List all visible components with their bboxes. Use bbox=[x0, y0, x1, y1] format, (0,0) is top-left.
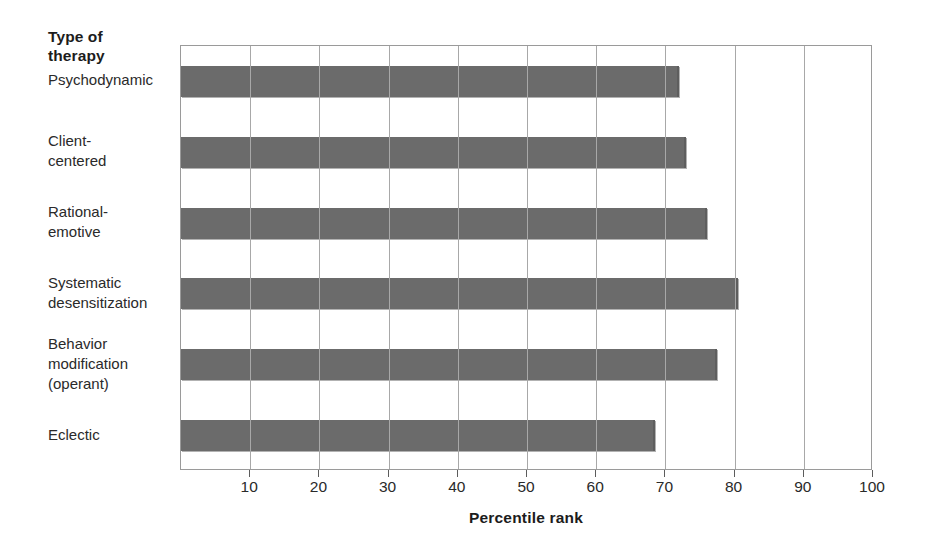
gridline bbox=[596, 46, 597, 469]
category-label-line: Behavior bbox=[48, 334, 176, 354]
category-label-line: Eclectic bbox=[48, 425, 176, 445]
category-label-line: Client- bbox=[48, 131, 176, 151]
category-label-line: centered bbox=[48, 151, 176, 171]
tick-mark bbox=[318, 470, 319, 477]
gridline bbox=[665, 46, 666, 469]
tick-label: 100 bbox=[859, 478, 885, 496]
tick-mark bbox=[526, 470, 527, 477]
category-label: Psychodynamic bbox=[48, 70, 176, 90]
gridline bbox=[458, 46, 459, 469]
bar bbox=[181, 208, 707, 239]
tick-label: 60 bbox=[587, 478, 604, 496]
plot-area bbox=[180, 45, 872, 470]
tick-label: 30 bbox=[379, 478, 396, 496]
category-label: Rational-emotive bbox=[48, 202, 176, 242]
category-label: Client-centered bbox=[48, 131, 176, 171]
gridline bbox=[389, 46, 390, 469]
category-label-line: Psychodynamic bbox=[48, 70, 176, 90]
category-label-line: (operant) bbox=[48, 374, 176, 394]
category-label: Eclectic bbox=[48, 425, 176, 445]
category-label: Systematicdesensitization bbox=[48, 273, 176, 313]
bar bbox=[181, 66, 679, 97]
gridline bbox=[527, 46, 528, 469]
category-label-column: PsychodynamicClient-centeredRational-emo… bbox=[48, 45, 176, 470]
gridline bbox=[735, 46, 736, 469]
x-axis-tick-labels: 102030405060708090100 bbox=[180, 478, 872, 502]
tick-mark bbox=[457, 470, 458, 477]
bar bbox=[181, 137, 686, 168]
tick-label: 70 bbox=[656, 478, 673, 496]
bar bbox=[181, 278, 738, 309]
x-axis-tick-marks bbox=[180, 470, 872, 477]
tick-label: 90 bbox=[794, 478, 811, 496]
y-axis-title-line: Type of bbox=[48, 27, 178, 46]
category-label-line: Systematic bbox=[48, 273, 176, 293]
category-label: Behaviormodification(operant) bbox=[48, 334, 176, 394]
tick-mark bbox=[595, 470, 596, 477]
tick-label: 10 bbox=[241, 478, 258, 496]
gridline bbox=[319, 46, 320, 469]
bar bbox=[181, 420, 655, 451]
bar bbox=[181, 349, 717, 380]
tick-mark bbox=[872, 470, 873, 477]
tick-mark bbox=[803, 470, 804, 477]
category-label-line: desensitization bbox=[48, 293, 176, 313]
tick-mark bbox=[734, 470, 735, 477]
tick-mark bbox=[664, 470, 665, 477]
gridline bbox=[804, 46, 805, 469]
tick-label: 50 bbox=[517, 478, 534, 496]
bar-chart-figure: Type oftherapy PsychodynamicClient-cente… bbox=[0, 0, 938, 552]
x-axis-title: Percentile rank bbox=[180, 509, 872, 527]
category-label-line: Rational- bbox=[48, 202, 176, 222]
tick-mark bbox=[388, 470, 389, 477]
tick-label: 40 bbox=[448, 478, 465, 496]
gridline bbox=[250, 46, 251, 469]
tick-label: 20 bbox=[310, 478, 327, 496]
tick-label: 80 bbox=[725, 478, 742, 496]
category-label-line: modification bbox=[48, 354, 176, 374]
tick-mark bbox=[249, 470, 250, 477]
category-label-line: emotive bbox=[48, 222, 176, 242]
